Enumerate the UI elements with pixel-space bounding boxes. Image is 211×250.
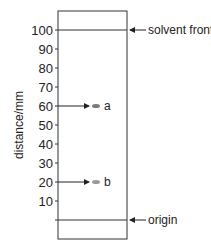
- chromatography-paper: [58, 11, 127, 239]
- solvent-front-label: solvent front: [148, 23, 211, 37]
- spot-b: [92, 180, 100, 184]
- tick-label-10: 10: [39, 194, 53, 209]
- origin-label: origin: [148, 213, 177, 227]
- y-axis-label: distance/mm: [12, 91, 26, 159]
- tick-label-40: 40: [39, 137, 53, 152]
- spot-a: [92, 104, 100, 108]
- tick-label-90: 90: [39, 42, 53, 57]
- tick-label-20: 20: [39, 175, 53, 190]
- spot-a-label: a: [104, 99, 111, 113]
- tick-label-60: 60: [39, 99, 53, 114]
- chromatogram-diagram: 100 90 80 70 60 50 40 30 20 10 distance/…: [0, 0, 211, 250]
- y-axis-tick-labels: 100 90 80 70 60 50 40 30 20 10: [31, 23, 53, 209]
- tick-label-70: 70: [39, 80, 53, 95]
- spot-b-label: b: [104, 175, 111, 189]
- tick-label-30: 30: [39, 156, 53, 171]
- tick-label-50: 50: [39, 118, 53, 133]
- tick-label-80: 80: [39, 61, 53, 76]
- tick-label-100: 100: [31, 23, 53, 38]
